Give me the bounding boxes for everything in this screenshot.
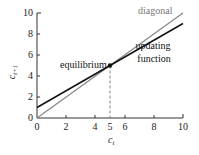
diagonal-label: diagonal: [138, 5, 173, 16]
x-ticks: [66, 114, 183, 118]
y-tick-label: 4: [28, 70, 33, 81]
x-tick-label: 10: [178, 121, 188, 132]
y-tick-label: 8: [28, 28, 33, 39]
y-tick-label: 2: [28, 91, 33, 102]
y-tick-label: 6: [28, 49, 33, 60]
x-tick-label: 4: [93, 121, 98, 132]
x-axis-label: ct: [108, 134, 115, 147]
y-tick-label: 0: [28, 112, 33, 123]
x-tick-label: 2: [64, 121, 69, 132]
equilibrium-point: [108, 63, 112, 67]
x-tick-label: 8: [152, 121, 157, 132]
x-tick-label: 5: [108, 121, 113, 132]
updating-function-label: updating: [136, 40, 171, 51]
x-tick-label: 6: [123, 121, 128, 132]
y-ticks: [37, 13, 41, 97]
x-tick-label: 0: [35, 121, 40, 132]
chart: 10 8 6 4 2 0 0 2 4 5 6 8 10 ct ct+1 diag…: [0, 0, 199, 155]
updating-function-label: function: [137, 53, 170, 64]
equilibrium-label: equilibrium: [60, 59, 107, 70]
y-axis-label: ct+1: [6, 65, 19, 80]
y-tick-label: 10: [23, 7, 33, 18]
